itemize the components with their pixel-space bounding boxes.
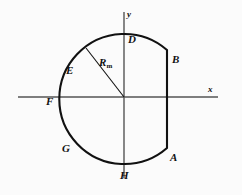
geometry-figure: x y Rm A B D E F G H (0, 0, 242, 195)
point-label-h: H (120, 170, 129, 181)
point-label-b: B (172, 54, 179, 65)
x-axis-label: x (208, 85, 213, 94)
y-axis-label: y (127, 10, 131, 19)
point-label-f: F (46, 96, 53, 107)
point-label-g: G (62, 143, 70, 154)
figure-canvas (0, 0, 242, 195)
radius-label-base: R (99, 56, 106, 68)
radius-label: Rm (99, 57, 112, 68)
point-label-d: D (128, 34, 136, 45)
point-label-a: A (170, 152, 177, 163)
truncated-circle-outline (59, 34, 167, 164)
point-label-e: E (66, 65, 73, 76)
radius-label-subscript: m (107, 62, 113, 70)
